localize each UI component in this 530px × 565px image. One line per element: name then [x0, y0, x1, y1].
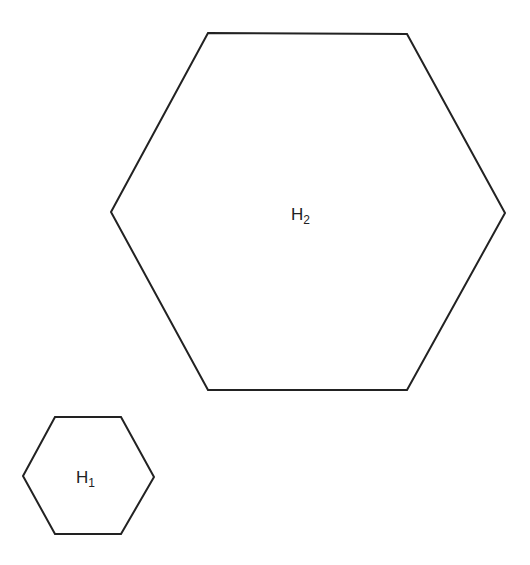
hexagon-h2: H2 [111, 33, 505, 390]
hexagon-h2-outline [111, 33, 505, 390]
hexagon-h1: H1 [23, 417, 154, 534]
hexagon-diagram: H2 H1 [0, 0, 530, 565]
hexagon-h1-label: H1 [76, 468, 95, 490]
hexagon-h2-label: H2 [291, 205, 310, 227]
